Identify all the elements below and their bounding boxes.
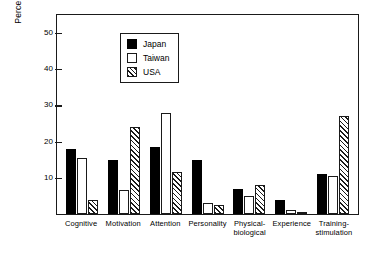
plot-area: Percent of mothers 1020304050 JapanTaiwa…: [56, 14, 359, 215]
legend-label: Taiwan: [143, 53, 169, 63]
bar-usa-training-stimulation: [339, 116, 349, 214]
bar-usa-personality: [214, 205, 224, 214]
x-label-line: biological: [229, 228, 271, 237]
x-label-attention: Attention: [144, 219, 186, 237]
legend-swatch-usa-icon: [127, 67, 137, 77]
x-label-training-stimulation: Training-stimulation: [313, 219, 355, 237]
bar-group-cognitive: [61, 15, 103, 214]
chart-legend: JapanTaiwanUSA: [120, 33, 179, 83]
bar-groups: [57, 15, 358, 214]
bar-usa-motivation: [130, 127, 140, 214]
bar-japan-motivation: [108, 160, 118, 214]
legend-swatch-taiwan-icon: [127, 53, 137, 63]
x-label-line: Training-: [313, 219, 355, 228]
x-axis-labels: CognitiveMotivationAttentionPersonalityP…: [56, 219, 359, 237]
bar-taiwan-physical-biological: [244, 196, 254, 214]
x-label-personality: Personality: [186, 219, 228, 237]
bar-taiwan-cognitive: [77, 158, 87, 214]
bar-japan-experience: [275, 200, 285, 214]
x-label-line: stimulation: [313, 228, 355, 237]
legend-item-japan[interactable]: Japan: [127, 39, 169, 49]
y-axis-title: Percent of mothers: [13, 0, 23, 61]
bar-japan-training-stimulation: [317, 174, 327, 214]
x-label-line: Attention: [144, 219, 186, 228]
bar-japan-physical-biological: [233, 189, 243, 214]
x-label-line: Cognitive: [60, 219, 102, 228]
bar-taiwan-attention: [161, 113, 171, 214]
bar-japan-attention: [150, 147, 160, 214]
bar-taiwan-personality: [203, 203, 213, 214]
legend-item-usa[interactable]: USA: [127, 67, 169, 77]
bar-taiwan-motivation: [119, 190, 129, 214]
x-label-line: Motivation: [102, 219, 144, 228]
legend-swatch-japan-icon: [127, 39, 137, 49]
bar-group-personality: [187, 15, 229, 214]
legend-label: USA: [143, 67, 160, 77]
y-tick-label: 10: [44, 174, 53, 182]
x-label-physical-biological: Physical-biological: [229, 219, 271, 237]
bar-group-experience: [270, 15, 312, 214]
x-label-line: Experience: [271, 219, 313, 228]
bar-usa-experience: [297, 212, 307, 214]
bar-usa-physical-biological: [255, 185, 265, 214]
chart-container: Percent of mothers 1020304050 JapanTaiwa…: [0, 0, 370, 268]
bar-taiwan-experience: [286, 210, 296, 214]
bar-taiwan-training-stimulation: [328, 176, 338, 214]
bar-group-training-stimulation: [312, 15, 354, 214]
x-label-line: Physical-: [229, 219, 271, 228]
bar-japan-personality: [192, 160, 202, 214]
y-tick-label: 50: [44, 29, 53, 37]
bar-usa-attention: [172, 172, 182, 214]
bar-usa-cognitive: [88, 200, 98, 214]
x-label-cognitive: Cognitive: [60, 219, 102, 237]
x-label-motivation: Motivation: [102, 219, 144, 237]
x-label-experience: Experience: [271, 219, 313, 237]
legend-label: Japan: [143, 39, 166, 49]
y-tick-label: 30: [44, 101, 53, 109]
legend-item-taiwan[interactable]: Taiwan: [127, 53, 169, 63]
bar-group-physical-biological: [228, 15, 270, 214]
y-tick-label: 20: [44, 138, 53, 146]
y-tick-label: 40: [44, 65, 53, 73]
bar-japan-cognitive: [66, 149, 76, 214]
x-label-line: Personality: [186, 219, 228, 228]
